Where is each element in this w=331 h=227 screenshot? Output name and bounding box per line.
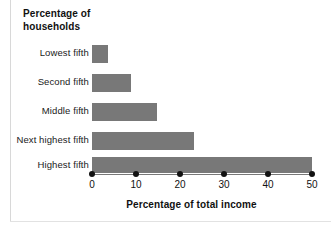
bar — [92, 45, 108, 63]
chart-figure: Percentage of households Lowest fifth Se… — [0, 0, 331, 227]
bar-row: Middle fifth — [0, 101, 331, 125]
bar-row: Next highest fifth — [0, 130, 331, 154]
x-axis-tick-dot — [133, 171, 139, 177]
x-axis-tick-label: 50 — [297, 179, 327, 190]
bar — [92, 103, 157, 121]
bar-row: Second fifth — [0, 72, 331, 96]
x-axis-tick-label: 20 — [165, 179, 195, 190]
x-axis-tick-dot — [221, 171, 227, 177]
x-axis-tick-dot — [89, 171, 95, 177]
bar-row: Highest fifth — [0, 155, 331, 179]
x-axis-tick-label: 10 — [121, 179, 151, 190]
category-label: Highest fifth — [38, 159, 89, 170]
category-label: Next highest fifth — [16, 134, 89, 145]
x-axis-tick-dot — [309, 171, 315, 177]
bar — [92, 132, 194, 150]
x-axis-title: Percentage of total income — [0, 199, 331, 210]
category-label: Lowest fifth — [40, 47, 89, 58]
x-axis-tick-dot — [177, 171, 183, 177]
category-label: Second fifth — [38, 76, 89, 87]
bar-row: Lowest fifth — [0, 43, 331, 67]
x-axis-line — [92, 173, 313, 174]
bar — [92, 74, 131, 92]
plot-area: Lowest fifth Second fifth Middle fifth N… — [0, 0, 331, 227]
x-axis-tick-label: 0 — [77, 179, 107, 190]
x-axis-tick-label: 30 — [209, 179, 239, 190]
category-label: Middle fifth — [42, 105, 89, 116]
x-axis-tick-label: 40 — [253, 179, 283, 190]
x-axis-tick-dot — [265, 171, 271, 177]
